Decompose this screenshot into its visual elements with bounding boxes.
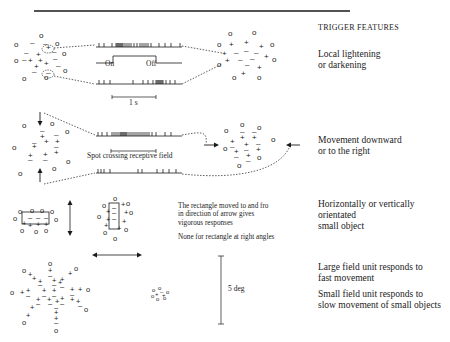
svg-text:o: o — [22, 121, 27, 130]
svg-text:o: o — [166, 289, 170, 295]
svg-text:o: o — [22, 318, 26, 327]
svg-text:o: o — [97, 212, 101, 221]
svg-text:+: + — [28, 221, 33, 230]
feature-line: fast movement — [318, 273, 423, 284]
feature-line: or darkening — [318, 60, 381, 71]
spike-train-top — [96, 43, 182, 47]
row1-left-field: o o–– +o –+–o o–++– ++– ––o oo — [14, 31, 68, 83]
svg-text:+: + — [32, 142, 37, 151]
svg-text:o: o — [217, 60, 222, 69]
feature-movement: Movement downward or to the right — [318, 135, 402, 157]
svg-text:+: + — [70, 295, 75, 304]
rectangle-note: The rectangle moved to and fro in direct… — [178, 202, 274, 241]
row3-vertical-rect: o o+o +––+o o+–+ ++o oo — [97, 194, 133, 243]
svg-text:o: o — [257, 153, 262, 162]
svg-text:o: o — [129, 208, 133, 217]
svg-text:–: – — [28, 155, 33, 164]
svg-text:o: o — [44, 226, 48, 235]
svg-text:o: o — [22, 266, 26, 275]
row3-horizontal-rect: oooo oo ––– ++++ ooo — [13, 206, 58, 236]
svg-text:o: o — [228, 29, 233, 38]
svg-text:+: + — [20, 288, 25, 297]
svg-text:–: – — [32, 67, 37, 76]
svg-text:o: o — [65, 127, 70, 136]
svg-text:o: o — [13, 214, 17, 223]
svg-text:o: o — [34, 227, 38, 236]
svg-text:o: o — [156, 296, 160, 302]
svg-text:o: o — [113, 234, 117, 243]
svg-text:o: o — [270, 40, 275, 49]
svg-text:+: + — [26, 311, 31, 320]
degree-scale-label: 5 deg — [228, 285, 244, 294]
svg-text:+: + — [30, 303, 35, 312]
svg-text:o: o — [124, 225, 128, 234]
feature-line: small object — [318, 221, 415, 232]
feature-line: Small field unit responds to — [318, 289, 441, 300]
svg-text:o: o — [163, 295, 167, 301]
svg-text:o: o — [113, 194, 117, 203]
svg-text:–: – — [234, 152, 239, 161]
svg-text:–: – — [78, 301, 83, 310]
svg-text:o: o — [84, 305, 88, 314]
svg-text:+: + — [32, 274, 37, 283]
svg-text:o: o — [86, 285, 90, 294]
feature-orientation: Horizontally or vertically orientated sm… — [318, 199, 415, 232]
note-line: The rectangle moved to and fro — [178, 202, 274, 210]
svg-text:–: – — [48, 299, 53, 308]
feature-large-field: Large field unit responds to fast moveme… — [318, 262, 423, 284]
off-label: Off — [146, 60, 156, 69]
svg-text:–: – — [244, 46, 249, 55]
svg-text:+: + — [257, 63, 262, 72]
svg-text:o: o — [257, 123, 262, 132]
svg-text:o: o — [257, 73, 262, 82]
on-label: On — [105, 60, 114, 69]
note-line: vigorous responses — [178, 219, 274, 227]
svg-text:o: o — [126, 199, 130, 208]
svg-text:–: – — [56, 61, 61, 70]
svg-text:o: o — [272, 55, 277, 64]
svg-text:+: + — [44, 137, 49, 146]
spike-train-opposite — [96, 169, 182, 173]
svg-text:o: o — [224, 126, 229, 135]
svg-text:–: – — [238, 55, 243, 64]
svg-text:+: + — [28, 56, 33, 65]
feature-small-field: Small field unit responds to slow moveme… — [318, 289, 441, 311]
svg-text:o: o — [232, 73, 237, 82]
spot-crossing-label: Spot crossing receptive field — [87, 152, 173, 161]
svg-text:o: o — [20, 226, 24, 235]
svg-text:o: o — [54, 215, 58, 224]
row2-right-field: ooo –+–+ +–+–o o+–+ –+–o o — [223, 120, 276, 170]
note-line: in direction of arrow gives — [178, 210, 274, 218]
svg-text:o: o — [50, 119, 55, 128]
spike-train-bottom — [96, 80, 182, 84]
time-scale-label: 1 s — [129, 99, 138, 108]
svg-text:o: o — [54, 326, 58, 335]
feature-line: or to the right — [318, 146, 402, 157]
svg-text:o: o — [18, 169, 23, 178]
svg-text:o: o — [223, 144, 228, 153]
feature-line: Large field unit responds to — [318, 262, 423, 273]
feature-line: orientated — [318, 210, 415, 221]
feature-line: Movement downward — [318, 135, 402, 146]
section-title: TRIGGER FEATURES — [318, 23, 399, 32]
svg-text:o: o — [103, 228, 107, 237]
svg-text:–: – — [30, 38, 35, 47]
svg-text:o: o — [271, 135, 276, 144]
svg-text:o: o — [62, 49, 67, 58]
svg-text:o: o — [237, 161, 242, 170]
svg-text:o: o — [217, 40, 222, 49]
svg-text:+: + — [68, 269, 73, 278]
feature-lightening: Local lightening or darkening — [318, 49, 381, 71]
row4-large-field: o o+o +–+ ++++ ––+– o++++ ++o –––– +++++… — [10, 259, 90, 335]
svg-text:+: + — [78, 285, 83, 294]
svg-text:o: o — [63, 66, 68, 75]
svg-text:o: o — [14, 56, 19, 65]
row1-right-field: oo o+++o +–––+ +––o o–+ +oo — [217, 28, 277, 82]
svg-text:o: o — [14, 40, 19, 49]
feature-line: Horizontally or vertically — [318, 199, 415, 210]
spike-train-moving — [96, 132, 182, 136]
row2-left-field: ooo –+– –++ o+ +++o ––– oo — [12, 119, 71, 178]
svg-text:o: o — [252, 28, 257, 37]
svg-text:–: – — [245, 60, 250, 69]
note-line: None for rectangle at right angles — [178, 233, 274, 241]
